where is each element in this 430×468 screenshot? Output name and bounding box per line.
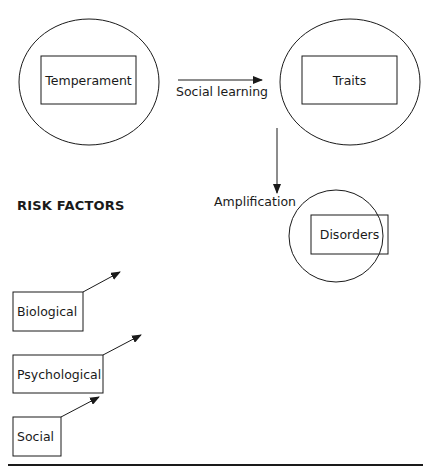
biological-label: Biological [13,292,83,331]
social-arrow [61,397,99,417]
psychological-label: Psychological [13,355,103,393]
social-label: Social [13,417,61,456]
amplification-label: Amplification [214,196,296,209]
risk-factors-heading: RISK FACTORS [17,198,125,213]
temperament-label: Temperament [41,56,136,104]
traits-label: Traits [302,56,397,104]
social-learning-label: Social learning [176,86,268,99]
psychological-arrow [103,335,141,355]
biological-arrow [83,272,120,292]
disorders-label: Disorders [311,215,388,254]
